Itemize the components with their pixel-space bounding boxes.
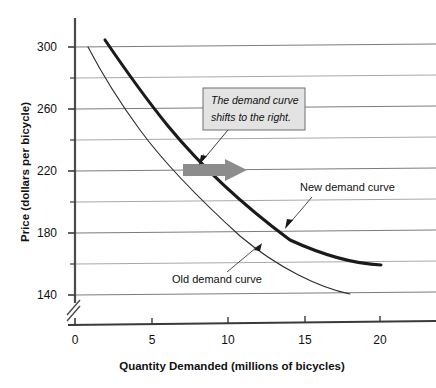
x-tick-labels: 0 5 10 15 20 bbox=[72, 333, 387, 347]
x-tick-label-0: 0 bbox=[72, 333, 79, 347]
x-tick-label-20: 20 bbox=[373, 333, 387, 347]
demand-curve-shift-chart: 300 260 220 180 140 0 5 10 15 20 Price (… bbox=[0, 0, 436, 388]
gridline-200 bbox=[75, 199, 436, 202]
x-tick-label-10: 10 bbox=[221, 333, 235, 347]
y-tick-label-300: 300 bbox=[37, 40, 57, 54]
old-demand-curve-label: Old demand curve bbox=[172, 273, 262, 285]
old-curve-leader-arrowhead-fill bbox=[254, 243, 262, 251]
y-tick-labels: 300 260 220 180 140 bbox=[37, 40, 57, 302]
y-axis-title: Price (dollars per bicycle) bbox=[19, 102, 31, 242]
y-tick-label-180: 180 bbox=[37, 226, 57, 240]
gridlines bbox=[75, 44, 436, 295]
y-tick-label-220: 220 bbox=[37, 164, 57, 178]
x-tick-label-5: 5 bbox=[149, 333, 156, 347]
gridline-140 bbox=[75, 292, 436, 295]
x-axis-title: Quantity Demanded (millions of bicycles) bbox=[119, 360, 345, 372]
x-tick-label-15: 15 bbox=[298, 333, 312, 347]
x-axis-line bbox=[68, 321, 436, 325]
callout-line-2: shifts to the right. bbox=[211, 111, 291, 123]
callout-line-1: The demand curve bbox=[211, 94, 299, 106]
callout-annotation: The demand curve shifts to the right. bbox=[199, 88, 305, 165]
callout-leader-line bbox=[203, 130, 228, 160]
gridline-240 bbox=[75, 137, 436, 140]
y-tick-label-260: 260 bbox=[37, 102, 57, 116]
new-curve-leader-arrowhead-fill bbox=[285, 219, 293, 229]
old-demand-curve-label-group: Old demand curve bbox=[172, 243, 262, 285]
gridline-180 bbox=[75, 230, 436, 233]
y-axis-break-icon bbox=[67, 300, 80, 321]
y-tick-label-140: 140 bbox=[37, 288, 57, 302]
chart-canvas: 300 260 220 180 140 0 5 10 15 20 Price (… bbox=[0, 0, 436, 388]
gridline-160 bbox=[75, 261, 436, 264]
gridline-220 bbox=[75, 168, 436, 171]
old-curve-leader-line bbox=[227, 247, 257, 272]
gridline-300 bbox=[75, 44, 436, 47]
new-demand-curve-label-group: New demand curve bbox=[285, 181, 395, 229]
new-demand-curve-label: New demand curve bbox=[300, 181, 395, 193]
